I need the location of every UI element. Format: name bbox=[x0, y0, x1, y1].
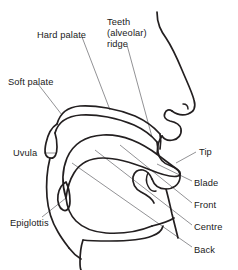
label-front: Front bbox=[194, 200, 216, 211]
tongue-root-outline bbox=[66, 198, 152, 233]
label-epiglottis: Epiglottis bbox=[10, 218, 49, 229]
label-uvula: Uvula bbox=[13, 148, 37, 159]
leader-soft-palate bbox=[38, 84, 62, 115]
label-blade: Blade bbox=[194, 178, 218, 189]
label-hard-palate: Hard palate bbox=[37, 30, 86, 41]
label-alveolar: (alveolar) bbox=[107, 28, 147, 39]
neck-front-outline bbox=[166, 189, 178, 238]
leader-back bbox=[72, 163, 192, 247]
label-tip: Tip bbox=[199, 147, 212, 158]
leader-hard-palate bbox=[82, 37, 110, 110]
leader-epiglottis bbox=[42, 198, 66, 217]
leader-tip bbox=[176, 152, 196, 163]
vocal-tract-diagram: Hard palate Teeth (alveolar) ridge Soft … bbox=[0, 0, 238, 270]
label-centre: Centre bbox=[194, 222, 222, 233]
label-back: Back bbox=[194, 245, 215, 256]
lower-teeth-outline bbox=[133, 170, 154, 203]
lower-lip-outline bbox=[152, 136, 180, 189]
nose-profile-outline bbox=[157, 12, 195, 115]
leader-centre bbox=[95, 150, 192, 225]
chin-outline bbox=[80, 240, 83, 270]
lower-jaw-outline bbox=[69, 218, 174, 259]
label-ridge: ridge bbox=[107, 39, 128, 50]
label-teeth: Teeth bbox=[107, 17, 130, 28]
label-soft-palate: Soft palate bbox=[8, 77, 53, 88]
nostril-outline bbox=[183, 104, 188, 109]
